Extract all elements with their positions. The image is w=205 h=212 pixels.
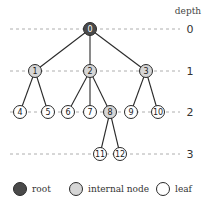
tree-node-leaf: 11 [94,148,107,161]
legend-item-internal: internal node [70,183,150,196]
tree-nodes: 0123456789101112 [14,23,165,161]
node-label: 1 [32,67,37,76]
node-label: 9 [128,108,133,117]
tree-node-internal: 1 [29,65,42,78]
tree-edge [90,29,146,71]
depth-label: 1 [187,65,194,78]
node-label: 0 [87,25,92,34]
node-label: 2 [87,67,92,76]
tree-edges [20,29,158,154]
legend-label-root: root [32,184,51,194]
depth-label: 3 [187,148,194,161]
tree-node-leaf: 6 [62,106,75,119]
tree-node-leaf: 7 [84,106,97,119]
tree-node-internal: 3 [140,65,153,78]
tree-node-leaf: 12 [114,148,127,161]
node-label: 3 [143,67,148,76]
node-label: 5 [45,108,50,117]
node-label: 6 [65,108,70,117]
node-label: 11 [95,150,105,159]
tree-node-root: 0 [84,23,97,36]
leaf-swatch-icon [157,183,170,196]
node-label: 12 [115,150,125,159]
legend-item-leaf: leaf [157,183,193,196]
tree-node-leaf: 10 [152,106,165,119]
tree-edge [35,29,90,71]
legend-label-leaf: leaf [175,184,193,194]
tree-node-leaf: 5 [42,106,55,119]
internal-node-swatch-icon [70,183,83,196]
depth-levels: 0123 [10,23,194,161]
tree-node-internal: 8 [104,106,117,119]
depth-label: 0 [187,23,194,36]
root-swatch-icon [14,183,27,196]
node-label: 7 [87,108,92,117]
tree-node-internal: 2 [84,65,97,78]
tree-diagram: depth 0123 0123456789101112 root interna… [0,0,205,212]
legend-label-internal: internal node [88,184,149,194]
depth-label: 2 [187,106,194,119]
legend-item-root: root [14,183,52,196]
depth-axis-title: depth [175,6,201,16]
node-label: 8 [107,108,112,117]
node-label: 4 [17,108,22,117]
node-label: 10 [153,108,163,117]
tree-node-leaf: 4 [14,106,27,119]
legend: root internal node leaf [14,183,193,196]
tree-node-leaf: 9 [125,106,138,119]
